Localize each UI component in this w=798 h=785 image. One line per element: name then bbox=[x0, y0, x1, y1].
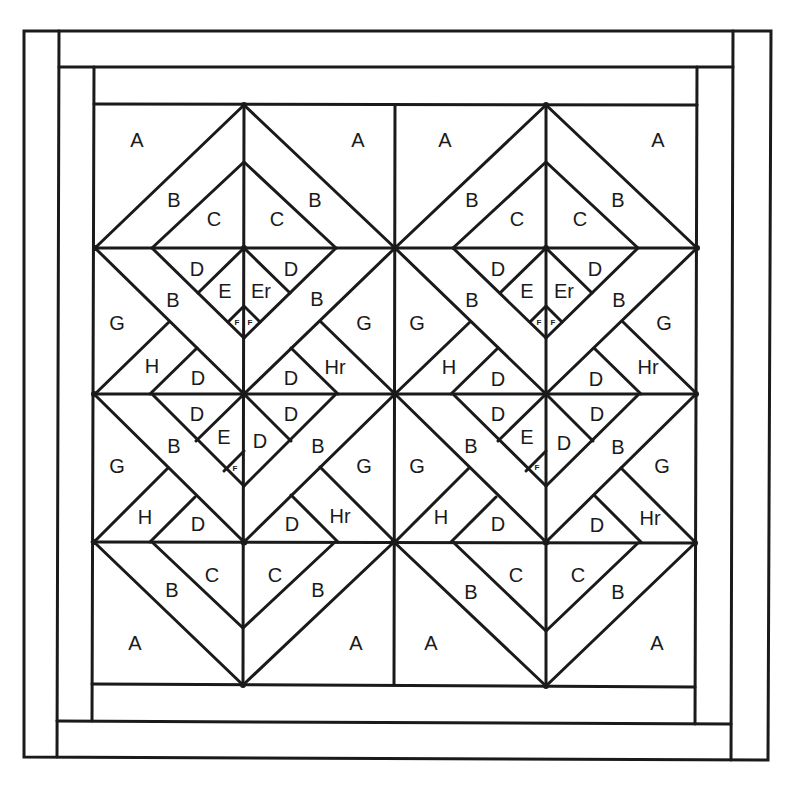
patch-label-d: D bbox=[491, 513, 505, 535]
patch-label-b: B bbox=[465, 189, 478, 211]
patch-label-d: D bbox=[589, 368, 603, 390]
patch-label-e: E bbox=[520, 426, 533, 448]
patch-label-d: D bbox=[191, 367, 205, 389]
patch-label-b: B bbox=[167, 189, 180, 211]
patch-label-b: B bbox=[612, 289, 625, 311]
patch-label-g: G bbox=[654, 455, 670, 477]
patch-label-b: B bbox=[464, 435, 477, 457]
patch-label-c: C bbox=[571, 564, 585, 586]
patch-label-d: D bbox=[190, 258, 204, 280]
patch-label-f: F bbox=[248, 318, 253, 327]
patch-label-h: H bbox=[145, 355, 159, 377]
patch-label-a: A bbox=[438, 129, 452, 151]
patch-label-hr: Hr bbox=[329, 505, 350, 527]
patch-label-g: G bbox=[409, 455, 425, 477]
patch-label-a: A bbox=[128, 632, 142, 654]
patch-label-er: Er bbox=[554, 280, 574, 302]
patch-label-e: E bbox=[218, 280, 231, 302]
patch-label-b: B bbox=[611, 581, 624, 603]
patch-label-d: D bbox=[190, 403, 204, 425]
outer-left-strip bbox=[57, 31, 59, 757]
patch-label-b: B bbox=[465, 289, 478, 311]
patch-label-a: A bbox=[651, 129, 665, 151]
patch-label-f: F bbox=[233, 464, 238, 473]
patch-label-h: H bbox=[434, 506, 448, 528]
patch-label-d: D bbox=[253, 430, 267, 452]
patch-label-b: B bbox=[311, 435, 324, 457]
patch-label-g: G bbox=[356, 455, 372, 477]
patch-label-hr: Hr bbox=[324, 356, 345, 378]
patch-label-d: D bbox=[284, 258, 298, 280]
patch-label-d: D bbox=[557, 432, 571, 454]
patch-label-c: C bbox=[270, 208, 284, 230]
patch-label-a: A bbox=[130, 129, 144, 151]
patch-label-h: H bbox=[138, 506, 152, 528]
patch-label-e: E bbox=[217, 426, 230, 448]
patch-label-c: C bbox=[268, 564, 282, 586]
patch-label-a: A bbox=[650, 632, 664, 654]
patch-label-d: D bbox=[491, 258, 505, 280]
patch-label-c: C bbox=[573, 208, 587, 230]
patch-label-b: B bbox=[166, 289, 179, 311]
patch-label-b: B bbox=[310, 288, 323, 310]
patch-label-b: B bbox=[308, 189, 321, 211]
outer-right-strip bbox=[731, 31, 733, 760]
patch-label-b: B bbox=[611, 189, 624, 211]
patch-label-a: A bbox=[349, 632, 363, 654]
patch-label-c: C bbox=[509, 564, 523, 586]
patch-label-d: D bbox=[588, 258, 602, 280]
patch-label-c: C bbox=[510, 208, 524, 230]
patch-label-a: A bbox=[351, 129, 365, 151]
patch-label-c: C bbox=[207, 208, 221, 230]
patch-label-b: B bbox=[311, 579, 324, 601]
patch-label-d: D bbox=[285, 513, 299, 535]
patch-label-g: G bbox=[109, 312, 125, 334]
patch-label-d: D bbox=[191, 513, 205, 535]
patch-label-b: B bbox=[167, 435, 180, 457]
patch-label-c: C bbox=[205, 564, 219, 586]
quilt-diagram: AABCCBDDEErFFBBGGHDDHrDDEDFBBGGHDDHrCCBB… bbox=[0, 0, 798, 785]
patch-label-g: G bbox=[409, 312, 425, 334]
patch-label-er: Er bbox=[251, 280, 271, 302]
patch-label-f: F bbox=[551, 318, 556, 327]
patch-label-a: A bbox=[424, 632, 438, 654]
patch-label-f: F bbox=[535, 463, 540, 472]
patch-label-b: B bbox=[165, 579, 178, 601]
patch-label-d: D bbox=[284, 403, 298, 425]
patch-label-g: G bbox=[109, 455, 125, 477]
patch-label-b: B bbox=[464, 581, 477, 603]
patch-label-g: G bbox=[356, 312, 372, 334]
patch-label-hr: Hr bbox=[637, 356, 658, 378]
patch-label-f: F bbox=[537, 318, 542, 327]
patch-label-f: F bbox=[235, 318, 240, 327]
patch-label-d: D bbox=[491, 403, 505, 425]
patch-label-g: G bbox=[656, 312, 672, 334]
patch-label-hr: Hr bbox=[639, 507, 660, 529]
patch-label-h: H bbox=[442, 356, 456, 378]
patch-label-d: D bbox=[590, 403, 604, 425]
patch-label-d: D bbox=[284, 367, 298, 389]
patch-label-b: B bbox=[611, 436, 624, 458]
patch-label-e: E bbox=[520, 280, 533, 302]
patch-label-d: D bbox=[590, 514, 604, 536]
patch-label-d: D bbox=[491, 368, 505, 390]
